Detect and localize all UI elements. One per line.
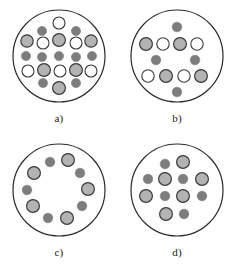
panel-d-particle-dark-11: [179, 209, 189, 219]
panel-a-particle-open-4: [37, 37, 49, 49]
panel-d-particle-light-10: [160, 208, 173, 221]
panel-b-label: b): [118, 112, 236, 124]
panel-a-particle-open-15: [54, 65, 66, 77]
panel-a: a): [0, 0, 118, 134]
panel-a-particle-light-5: [53, 34, 66, 47]
panel-c-particle-dark-3: [22, 185, 32, 195]
panel-a-particle-open-0: [53, 17, 65, 29]
panel-d-particle-light-6: [140, 190, 153, 203]
panel-a-particle-dark-8: [21, 51, 30, 60]
panel-b-particle-dark-5: [151, 55, 161, 65]
panel-a-particle-open-17: [85, 65, 97, 77]
panel-c-particle-dark-9: [75, 168, 85, 178]
panel-b-particle-dark-0: [172, 22, 182, 32]
panel-a-particle-open-13: [22, 65, 34, 77]
panel-c-particle-light-2: [28, 167, 41, 180]
panel-a-particle-light-16: [70, 64, 83, 77]
panel-b-particle-light-3: [174, 38, 187, 51]
panel-c: c): [0, 134, 118, 268]
panel-d-particle-light-0: [177, 156, 190, 169]
panel-a-particle-dark-19: [71, 78, 80, 87]
panel-a-label: a): [0, 112, 118, 124]
panel-b-particle-dark-11: [172, 87, 182, 97]
panel-c-particle-light-8: [82, 183, 95, 196]
panel-c-particle-dark-1: [45, 157, 55, 167]
panel-b-particle-light-10: [195, 70, 208, 83]
panel-a-particle-dark-12: [87, 51, 96, 60]
panel-d-particle-light-3: [159, 173, 172, 186]
panel-a-particle-dark-2: [71, 26, 80, 35]
panel-b-particle-open-2: [157, 38, 169, 50]
panel-b: b): [118, 0, 236, 134]
panel-a-particle-light-3: [21, 35, 33, 47]
panel-b-particle-light-1: [140, 38, 153, 51]
panel-a-particle-light-20: [53, 82, 66, 95]
panel-a-particle-dark-11: [71, 52, 80, 61]
panel-b-particle-open-9: [178, 70, 190, 82]
panel-a-particle-light-7: [85, 35, 97, 47]
panel-a-particle-dark-1: [37, 26, 46, 35]
panel-a-particle-dark-18: [38, 78, 47, 87]
panel-d-label: d): [118, 246, 236, 258]
figure-root: a) b) c) d): [0, 0, 236, 268]
panel-d-particle-light-5: [196, 173, 209, 186]
panel-d-particle-light-8: [177, 190, 190, 203]
panel-c-particle-light-0: [62, 154, 75, 167]
panel-a-particle-dark-9: [37, 52, 46, 61]
panel-a-particle-dark-10: [54, 51, 63, 60]
panel-a-particle-light-14: [38, 64, 51, 77]
panel-d-particle-dark-2: [143, 174, 153, 184]
panel-d-particle-dark-7: [160, 191, 170, 201]
panel-c-particle-light-6: [61, 212, 74, 225]
panel-b-particle-light-8: [160, 70, 173, 83]
panel-d-particle-dark-4: [178, 174, 188, 184]
panel-a-particle-open-6: [70, 37, 82, 49]
panel-c-particle-dark-7: [77, 201, 87, 211]
panel-c-label: c): [0, 246, 118, 258]
panel-c-particle-light-4: [27, 200, 40, 213]
panel-c-particle-dark-5: [43, 213, 53, 223]
panel-b-particle-dark-6: [190, 55, 200, 65]
panel-b-particle-open-4: [191, 38, 203, 50]
panel-b-particle-open-7: [142, 70, 154, 82]
panel-d-particle-dark-1: [160, 159, 170, 169]
panel-d-particle-dark-9: [197, 191, 207, 201]
panel-d: d): [118, 134, 236, 268]
